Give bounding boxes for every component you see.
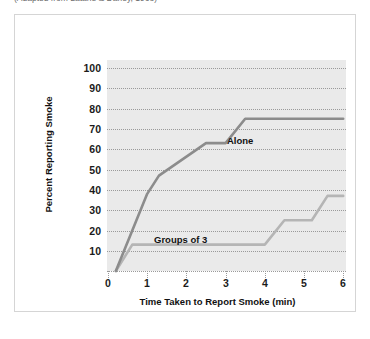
ytick-label-80: 80 (71, 104, 101, 114)
ytick-label-60: 60 (71, 144, 101, 154)
ytick-label-100: 100 (71, 63, 101, 73)
series-label-groups-of-3: Groups of 3 (154, 234, 207, 245)
xtick-label-6: 6 (331, 277, 355, 289)
ytick-label-20: 20 (71, 226, 101, 236)
plot-area-background (107, 60, 346, 271)
ytick-label-90: 90 (71, 83, 101, 93)
ytick-label-10: 10 (71, 246, 101, 256)
xtick-label-3: 3 (214, 277, 238, 289)
y-axis-tick-labels: 100 90 80 70 60 50 40 30 20 10 (67, 15, 101, 313)
series-label-alone: Alone (227, 135, 253, 146)
figure-caption: (Adapted from Latané & Darley, 1968) (14, 0, 354, 4)
gridline-40 (107, 190, 346, 191)
gridline-30 (107, 210, 346, 211)
y-axis-title: Percent Reporting Smoke (43, 75, 54, 235)
gridline-80 (107, 109, 346, 110)
gridline-50 (107, 170, 346, 171)
ytick-label-50: 50 (71, 165, 101, 175)
xtick-label-4: 4 (253, 277, 277, 289)
gridline-100 (107, 68, 346, 69)
xtick-label-1: 1 (135, 277, 159, 289)
gridline-60 (107, 149, 346, 150)
gridline-10 (107, 251, 346, 252)
figure-frame: 100 90 80 70 60 50 40 30 20 10 0 1 2 3 4… (14, 14, 356, 312)
ytick-label-70: 70 (71, 124, 101, 134)
xtick-label-2: 2 (174, 277, 198, 289)
gridline-90 (107, 88, 346, 89)
ytick-label-30: 30 (71, 205, 101, 215)
gridline-20 (107, 231, 346, 232)
ytick-label-40: 40 (71, 185, 101, 195)
x-axis-title: Time Taken to Report Smoke (min) (75, 296, 360, 307)
xtick-label-0: 0 (96, 277, 120, 289)
xtick-label-5: 5 (292, 277, 316, 289)
gridline-70 (107, 129, 346, 130)
